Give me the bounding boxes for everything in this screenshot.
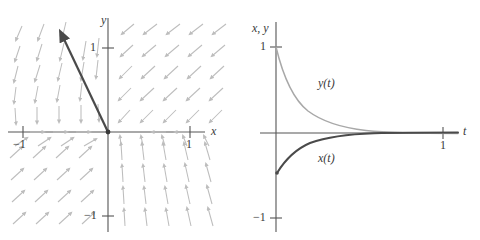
direction-field-panel: x y −1 1 1 −1 <box>0 0 240 240</box>
curve-label-x-of-t: x(t) <box>318 152 335 164</box>
x-curve-start-point <box>275 171 279 175</box>
component-solutions-panel: x, y t 1 −1 1 y(t) x(t) <box>240 0 480 240</box>
figure-root: x y −1 1 1 −1 x, y t 1 −1 1 y(t) x( <box>0 0 480 240</box>
left-y-axis-label: y <box>101 14 106 26</box>
right-vertical-axis-label: x, y <box>252 22 269 34</box>
curve-x-of-t <box>277 133 458 173</box>
left-x-axis-label: x <box>211 125 216 137</box>
straight-line-trajectory <box>62 35 110 134</box>
right-vertical-tick-label-pos1: 1 <box>260 40 266 52</box>
left-y-tick-label-neg1: −1 <box>84 209 97 221</box>
left-x-tick-label-pos1: 1 <box>186 138 192 150</box>
curve-y-of-t <box>276 47 458 133</box>
direction-field-arrows <box>10 22 226 226</box>
equilibrium-point <box>106 130 111 135</box>
right-horizontal-axis-label: t <box>463 125 466 137</box>
left-x-tick-label-neg1: −1 <box>13 138 26 150</box>
field-quadrant-upper-right <box>119 24 226 122</box>
curve-label-y-of-t: y(t) <box>318 77 335 89</box>
direction-field-svg <box>0 0 240 240</box>
field-quadrant-upper-left <box>14 22 99 124</box>
component-solutions-svg <box>240 0 480 240</box>
left-y-tick-label-pos1: 1 <box>90 41 96 53</box>
right-axes <box>260 22 458 232</box>
field-quadrant-lower-right <box>120 136 213 226</box>
right-t-tick-label-pos1: 1 <box>440 139 446 151</box>
right-vertical-tick-label-neg1: −1 <box>253 211 266 223</box>
